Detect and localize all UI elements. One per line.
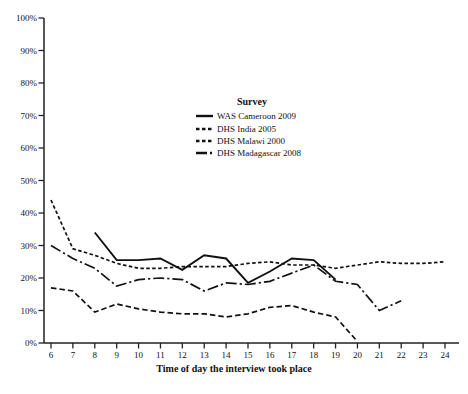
series-line-dhs-india-2005 bbox=[51, 200, 445, 268]
chart-plot-area: 0%10%20%30%40%50%60%70%80%90%100%6789101… bbox=[0, 0, 468, 394]
legend-marker-solid bbox=[196, 113, 213, 119]
y-tick-label: 50% bbox=[21, 176, 38, 186]
legend-item-dhs-madagascar-2008: DHS Madagascar 2008 bbox=[196, 147, 326, 159]
x-tick-label: 16 bbox=[265, 350, 275, 360]
y-tick-label: 20% bbox=[21, 273, 38, 283]
y-tick-label: 40% bbox=[21, 208, 38, 218]
legend: Survey WAS Cameroon 2009DHS India 2005DH… bbox=[196, 96, 326, 160]
x-tick-label: 13 bbox=[200, 350, 210, 360]
line-chart-figure: 0%10%20%30%40%50%60%70%80%90%100%6789101… bbox=[0, 0, 468, 394]
x-tick-label: 9 bbox=[114, 350, 119, 360]
y-tick-label: 70% bbox=[21, 111, 38, 121]
y-tick-label: 100% bbox=[16, 13, 38, 23]
y-tick-label: 80% bbox=[21, 78, 38, 88]
y-tick-label: 60% bbox=[21, 143, 38, 153]
x-tick-label: 22 bbox=[397, 350, 406, 360]
x-tick-label: 20 bbox=[353, 350, 363, 360]
x-tick-label: 15 bbox=[244, 350, 254, 360]
x-tick-label: 23 bbox=[419, 350, 429, 360]
legend-item-label: DHS India 2005 bbox=[217, 124, 276, 134]
x-tick-label: 10 bbox=[134, 350, 144, 360]
x-tick-label: 21 bbox=[375, 350, 384, 360]
y-tick-label: 90% bbox=[21, 46, 38, 56]
x-tick-label: 24 bbox=[441, 350, 451, 360]
x-tick-label: 17 bbox=[287, 350, 297, 360]
legend-item-was-cameroon-2009: WAS Cameroon 2009 bbox=[196, 110, 326, 122]
x-tick-label: 11 bbox=[156, 350, 165, 360]
x-tick-label: 8 bbox=[93, 350, 98, 360]
legend-marker-dashed bbox=[196, 138, 213, 144]
x-axis-title: Time of day the interview took place bbox=[0, 363, 468, 374]
legend-title: Survey bbox=[196, 96, 308, 107]
legend-marker-dashed-short bbox=[196, 126, 213, 132]
x-tick-label: 7 bbox=[71, 350, 76, 360]
legend-item-dhs-malawi-2000: DHS Malawi 2000 bbox=[196, 135, 326, 147]
y-tick-label: 10% bbox=[21, 306, 38, 316]
x-tick-label: 6 bbox=[49, 350, 54, 360]
legend-item-label: WAS Cameroon 2009 bbox=[217, 111, 296, 121]
x-tick-label: 12 bbox=[178, 350, 187, 360]
y-tick-label: 0% bbox=[25, 338, 38, 348]
x-tick-label: 18 bbox=[309, 350, 319, 360]
legend-marker-dash-dot bbox=[196, 150, 213, 156]
series-line-was-cameroon-2009 bbox=[95, 233, 336, 283]
series-line-dhs-malawi-2000 bbox=[51, 288, 357, 342]
legend-items: WAS Cameroon 2009DHS India 2005DHS Malaw… bbox=[196, 110, 326, 160]
legend-item-dhs-india-2005: DHS India 2005 bbox=[196, 122, 326, 134]
y-tick-label: 30% bbox=[21, 241, 38, 251]
legend-item-label: DHS Malawi 2000 bbox=[217, 136, 285, 146]
x-tick-label: 19 bbox=[331, 350, 341, 360]
x-tick-label: 14 bbox=[222, 350, 232, 360]
legend-item-label: DHS Madagascar 2008 bbox=[217, 148, 301, 158]
series-line-dhs-madagascar-2008 bbox=[51, 246, 401, 311]
